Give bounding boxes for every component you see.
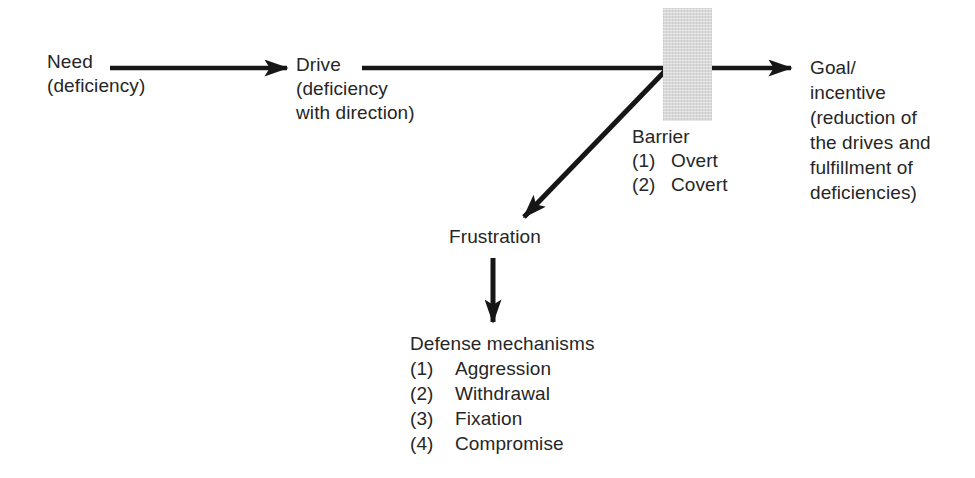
- goal-line-1: Goal/: [810, 55, 931, 80]
- barrier-label: Barrier (1)Overt (2)Covert: [632, 125, 728, 197]
- barrier-item: (2)Covert: [632, 173, 728, 197]
- frustration-model-diagram: Need (deficiency) Drive (deficiency with…: [0, 0, 975, 478]
- goal-line-2: incentive: [810, 80, 931, 105]
- defense-item-num: (3): [410, 406, 455, 431]
- drive-title: Drive: [296, 53, 415, 77]
- defense-item: (3)Fixation: [410, 406, 595, 431]
- goal-line-3: (reduction of: [810, 105, 931, 130]
- defense-item-label: Compromise: [455, 433, 564, 454]
- barrier-item-label: Covert: [671, 174, 728, 195]
- need-subtitle: (deficiency): [47, 74, 145, 98]
- defense-item-label: Withdrawal: [455, 383, 550, 404]
- goal-label: Goal/ incentive (reduction of the drives…: [810, 55, 931, 205]
- need-label: Need (deficiency): [47, 50, 145, 98]
- drive-subtitle-line-2: with direction): [296, 101, 415, 125]
- barrier-item-num: (2): [632, 173, 671, 197]
- defense-title: Defense mechanisms: [410, 331, 595, 356]
- frustration-title: Frustration: [449, 225, 541, 249]
- barrier-item-num: (1): [632, 149, 671, 173]
- defense-item: (2)Withdrawal: [410, 381, 595, 406]
- defense-item: (1)Aggression: [410, 356, 595, 381]
- goal-line-5: fulfillment of: [810, 155, 931, 180]
- defense-item-num: (2): [410, 381, 455, 406]
- defense-item-num: (4): [410, 431, 455, 456]
- drive-subtitle-line-1: (deficiency: [296, 77, 415, 101]
- goal-line-4: the drives and: [810, 130, 931, 155]
- defense-item-label: Aggression: [455, 358, 551, 379]
- defense-item-num: (1): [410, 356, 455, 381]
- barrier-item: (1)Overt: [632, 149, 728, 173]
- barrier-title: Barrier: [632, 125, 728, 149]
- barrier-box: [663, 8, 712, 121]
- defense-label: Defense mechanisms (1)Aggression (2)With…: [410, 331, 595, 456]
- need-title: Need: [47, 50, 145, 74]
- barrier-item-label: Overt: [671, 150, 718, 171]
- defense-item: (4)Compromise: [410, 431, 595, 456]
- defense-item-label: Fixation: [455, 408, 522, 429]
- frustration-label: Frustration: [449, 225, 541, 249]
- goal-line-6: deficiencies): [810, 180, 931, 205]
- drive-label: Drive (deficiency with direction): [296, 53, 415, 125]
